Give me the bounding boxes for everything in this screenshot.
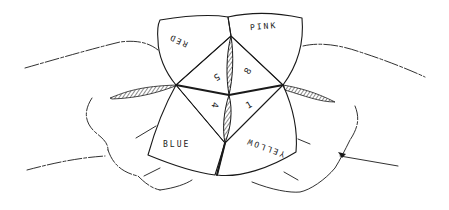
inner-number-4: 4 [209, 101, 220, 108]
flap-label-blue: BLUE [163, 140, 190, 149]
left-hand [25, 41, 192, 190]
line-drawing [0, 0, 449, 210]
fortune-teller-illustration: RED PINK BLUE YELLOW 5 8 4 1 [0, 0, 449, 210]
right-hand [252, 44, 425, 192]
